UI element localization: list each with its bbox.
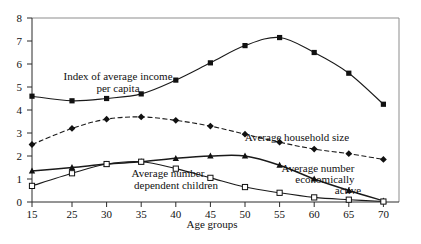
data-point-marker	[104, 96, 109, 101]
y-tick-label: 1	[17, 173, 23, 185]
data-point-marker	[242, 184, 247, 189]
chart-container: 0 1 2 3 4 5 6 7 8 1525303540455055606570…	[0, 0, 421, 244]
x-tick-label: 30	[101, 208, 113, 220]
x-tick-label: 50	[240, 208, 252, 220]
x-tick-label: 35	[136, 208, 148, 220]
annotation-household-size: Average household size	[245, 131, 349, 143]
data-point-marker	[381, 102, 386, 107]
y-tick-label: 5	[17, 81, 23, 93]
x-tick-label: 40	[170, 208, 182, 220]
y-tick-label: 7	[17, 35, 23, 47]
data-point-marker	[29, 183, 34, 188]
y-tick-label: 8	[17, 12, 23, 24]
data-point-marker	[312, 195, 317, 200]
x-axis-title: Age groups	[186, 218, 237, 230]
x-tick-label: 55	[274, 208, 286, 220]
data-point-marker	[173, 78, 178, 83]
y-tick-label: 2	[17, 150, 23, 162]
annotation-income-line2: per capita	[96, 82, 139, 94]
x-tick-label: 25	[67, 208, 79, 220]
data-point-marker	[312, 50, 317, 55]
data-point-marker	[104, 161, 109, 166]
data-point-marker	[381, 199, 386, 204]
annotation-children-line1: Average number	[132, 167, 205, 179]
annotation-household-line1: Average household size	[245, 131, 349, 143]
data-point-marker	[139, 159, 144, 164]
annotation-income-line1: Index of average income	[63, 70, 172, 82]
annotation-active-line3: active	[335, 184, 361, 196]
data-point-marker	[29, 94, 34, 99]
y-tick-label: 3	[17, 127, 23, 139]
annotation-children-line2: dependent children	[134, 179, 218, 191]
data-point-marker	[346, 71, 351, 76]
data-point-marker	[277, 190, 282, 195]
x-tick-label: 15	[27, 208, 39, 220]
data-point-marker	[346, 197, 351, 202]
data-point-marker	[277, 35, 282, 40]
y-tick-label: 6	[17, 58, 23, 70]
data-point-marker	[242, 43, 247, 48]
y-tick-label: 0	[17, 196, 23, 208]
x-tick-label: 70	[378, 208, 390, 220]
data-point-marker	[208, 60, 213, 65]
data-point-marker	[69, 98, 74, 103]
data-point-marker	[69, 171, 74, 176]
x-tick-label: 60	[309, 208, 321, 220]
y-tick-label: 4	[17, 104, 23, 116]
x-tick-label: 65	[343, 208, 355, 220]
y-axis-tick-labels: 0 1 2 3 4 5 6 7 8	[17, 12, 23, 208]
line-chart: 0 1 2 3 4 5 6 7 8 1525303540455055606570…	[0, 0, 421, 244]
